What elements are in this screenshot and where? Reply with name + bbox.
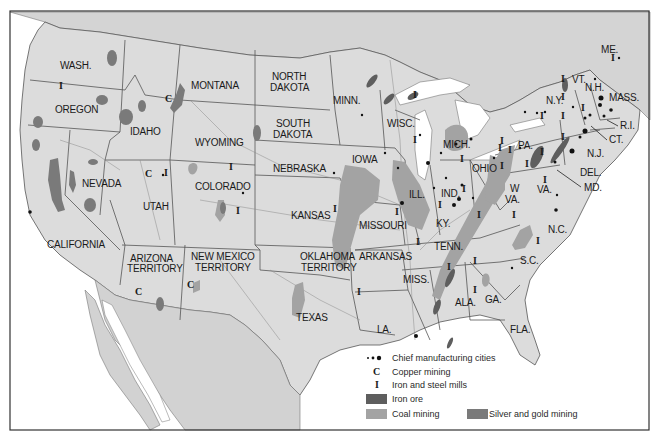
iron-steel-symbol: I xyxy=(525,158,529,169)
iron-steel-symbol: I xyxy=(333,203,337,214)
state-label-mich: MICH. xyxy=(443,139,470,150)
copper-symbol: C xyxy=(187,279,194,290)
city-dot xyxy=(333,172,335,174)
city-dot xyxy=(414,334,418,338)
state-label-south-dakota-2: DAKOTA xyxy=(273,129,313,140)
us-industry-map: C C C C I I I I I I I I I I I I I I I I … xyxy=(0,0,653,442)
state-label-miss: MISS. xyxy=(403,274,429,285)
state-label-minn: MINN. xyxy=(333,95,360,106)
sg-oregon-3 xyxy=(32,139,40,151)
city-dot xyxy=(493,157,495,159)
state-label-colorado: COLORADO xyxy=(195,181,251,192)
city-dot xyxy=(584,117,587,120)
sg-oregon-2 xyxy=(33,116,43,128)
sg-idaho-2 xyxy=(138,100,146,112)
coal-mining-swatch xyxy=(366,409,387,419)
state-label-nebraska: NEBRASKA xyxy=(273,163,326,174)
state-label-oregon: OREGON xyxy=(55,104,98,115)
city-dot xyxy=(579,136,582,139)
sg-arizona xyxy=(156,297,164,311)
city-dot xyxy=(384,152,386,154)
iron-steel-symbol: I xyxy=(512,209,516,220)
city-dot xyxy=(524,111,526,113)
city-dot xyxy=(583,129,588,134)
iron-steel-symbol: I xyxy=(460,153,464,164)
city-dot xyxy=(598,103,602,107)
sg-colorado xyxy=(220,202,226,214)
city-dot xyxy=(433,187,435,189)
state-label-wva-2: VA. xyxy=(505,194,520,205)
city-dot xyxy=(361,114,363,116)
iron-steel-symbol: I xyxy=(413,89,417,100)
city-dot xyxy=(28,210,32,214)
city-dot xyxy=(536,112,538,114)
state-label-arizona-territory: TERRITORY xyxy=(127,263,183,274)
city-dot xyxy=(445,177,447,179)
legend-label-silver-gold: Silver and gold mining xyxy=(489,409,578,419)
iron-steel-symbol: I xyxy=(536,235,540,246)
iron-steel-symbol: I xyxy=(540,110,544,121)
state-label-kansas: KANSAS xyxy=(291,210,331,221)
iron-steel-symbol: I xyxy=(416,236,420,247)
city-dot xyxy=(554,208,558,212)
state-label-ga: GA. xyxy=(485,294,502,305)
sg-nevada-1 xyxy=(88,159,98,165)
city-dot xyxy=(556,194,558,196)
iron-steel-symbol: I xyxy=(438,199,442,210)
state-label-nc: N.C. xyxy=(548,224,567,235)
iron-steel-symbol-icon: I xyxy=(375,379,379,390)
state-label-nevada: NEVADA xyxy=(82,178,122,189)
iron-steel-symbol: I xyxy=(395,206,399,217)
state-label-idaho: IDAHO xyxy=(130,126,161,137)
city-dot xyxy=(603,115,606,118)
state-label-new-mexico-territory: TERRITORY xyxy=(195,262,251,273)
state-label-wash: WASH. xyxy=(60,60,91,71)
city-dot xyxy=(572,106,574,108)
city-dot xyxy=(426,161,430,165)
state-label-iowa: IOWA xyxy=(352,154,378,165)
state-label-me: ME. xyxy=(601,44,618,55)
state-label-ct: CT. xyxy=(609,134,623,145)
large-city-dot-icon xyxy=(377,356,381,360)
city-dot xyxy=(419,134,421,136)
state-label-south-dakota: SOUTH xyxy=(276,118,310,129)
iron-steel-symbol: I xyxy=(462,183,466,194)
state-label-ny: N.Y. xyxy=(546,95,563,106)
state-label-ohio: OHIO xyxy=(472,163,497,174)
state-label-ala: ALA. xyxy=(455,297,476,308)
legend-label-iron-ore: Iron ore xyxy=(392,394,423,404)
city-dot xyxy=(544,111,546,113)
state-label-montana: MONTANA xyxy=(191,80,239,91)
state-label-new-mexico: NEW MEXICO xyxy=(191,251,255,262)
city-dot xyxy=(511,267,513,269)
iron-steel-symbol: I xyxy=(413,134,417,145)
legend-item-iron-ore: Iron ore xyxy=(366,394,423,404)
medium-city-dot-icon xyxy=(372,357,375,360)
iron-steel-symbol: I xyxy=(229,161,233,172)
city-dot xyxy=(554,161,557,164)
state-label-pa: PA. xyxy=(518,140,533,151)
copper-symbol: C xyxy=(165,93,172,104)
state-label-vt: VT. xyxy=(572,74,586,85)
legend-label-coal: Coal mining xyxy=(392,409,440,419)
state-label-mass: MASS. xyxy=(609,92,639,103)
state-label-la: LA. xyxy=(377,324,391,335)
sg-nevada-2 xyxy=(84,198,96,212)
silver-gold-swatch xyxy=(467,409,488,419)
city-dot xyxy=(609,108,613,112)
iron-steel-symbol: I xyxy=(473,255,477,266)
legend-label-iron-steel: Iron and steel mills xyxy=(392,380,468,390)
legend-item-silver-gold: Silver and gold mining xyxy=(467,409,578,419)
state-label-oklahoma-territory: TERRITORY xyxy=(301,262,357,273)
state-label-tenn: TENN. xyxy=(434,241,463,252)
state-label-nh: N.H. xyxy=(585,82,604,93)
iron-steel-symbol: I xyxy=(59,80,63,91)
city-dot xyxy=(242,192,244,194)
city-dot xyxy=(400,201,404,205)
city-dot xyxy=(452,203,456,207)
city-dot xyxy=(472,197,474,199)
state-label-ill: ILL. xyxy=(409,189,425,200)
state-label-texas: TEXAS xyxy=(296,312,328,323)
state-label-north-dakota-2: DAKOTA xyxy=(270,82,310,93)
copper-symbol-icon: C xyxy=(373,366,380,377)
